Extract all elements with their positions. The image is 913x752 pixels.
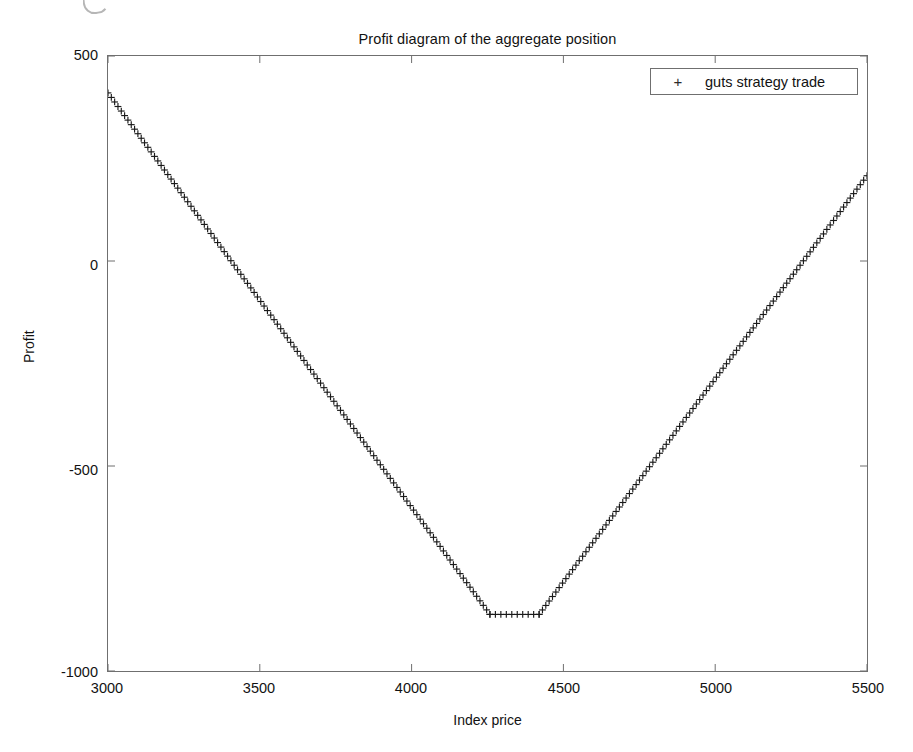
profit-diagram-figure: Profit diagram of the aggregate position… bbox=[0, 0, 913, 752]
scan-artifact bbox=[82, 0, 110, 15]
chart-title: Profit diagram of the aggregate position bbox=[107, 31, 868, 47]
x-tick-label-4000: 4000 bbox=[395, 680, 427, 696]
legend-label-guts-strategy-trade: guts strategy trade bbox=[705, 74, 825, 90]
legend-plus-marker-icon: + bbox=[651, 74, 705, 89]
plot-inner bbox=[108, 56, 867, 671]
plot-area bbox=[107, 55, 868, 672]
legend[interactable]: + guts strategy trade bbox=[650, 68, 858, 95]
x-axis-title: Index price bbox=[107, 712, 868, 728]
y-axis-title: Profit bbox=[21, 330, 37, 363]
y-tick-label-0: 0 bbox=[32, 257, 98, 273]
x-tick-label-4500: 4500 bbox=[548, 680, 580, 696]
y-tick-label-minus1000: -1000 bbox=[32, 664, 98, 680]
x-tick-label-5000: 5000 bbox=[700, 680, 732, 696]
y-tick-label-500: 500 bbox=[32, 47, 98, 63]
x-tick-label-3000: 3000 bbox=[91, 680, 123, 696]
y-tick-label-minus500: -500 bbox=[32, 462, 98, 478]
x-tick-label-5500: 5500 bbox=[852, 680, 884, 696]
series-canvas bbox=[108, 56, 867, 671]
x-tick-label-3500: 3500 bbox=[243, 680, 275, 696]
